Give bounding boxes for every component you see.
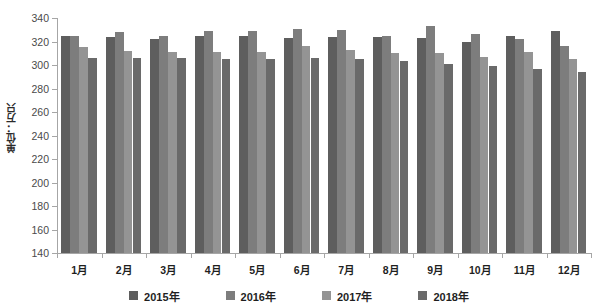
x-axis-tick-label: 12月: [558, 262, 580, 277]
bar-2017年-4月: [213, 52, 222, 253]
bar-2015年-8月: [373, 37, 382, 253]
legend-swatch-icon: [322, 291, 331, 300]
bar-2015年-1月: [61, 36, 70, 253]
bar-2016年-2月: [115, 32, 124, 253]
bar-chart: 单位：万只 3403203002802602402202001801601401…: [0, 0, 598, 308]
y-axis-tick-label: 160: [5, 224, 49, 236]
y-axis-tick-mark: [52, 42, 57, 43]
x-axis-tick-label: 8月: [383, 262, 399, 277]
y-axis-tick-label: 340: [5, 12, 49, 24]
bar-2016年-4月: [204, 31, 213, 253]
bar-2016年-5月: [248, 31, 257, 253]
x-axis-tick-mark: [413, 253, 414, 258]
bar-2018年-11月: [533, 69, 542, 253]
bar-2017年-11月: [524, 52, 533, 253]
y-axis-tick-label: 240: [5, 130, 49, 142]
bar-2017年-12月: [569, 59, 578, 253]
legend-swatch-icon: [418, 291, 427, 300]
bar-2017年-2月: [124, 51, 133, 253]
y-axis-tick-label: 320: [5, 36, 49, 48]
y-axis-tick-label: 300: [5, 59, 49, 71]
x-axis-tick-label: 3月: [160, 262, 176, 277]
bar-2015年-9月: [417, 38, 426, 253]
chart-legend: 2015年2016年2017年2018年: [0, 283, 598, 308]
bar-2016年-12月: [560, 46, 569, 253]
bar-2016年-1月: [70, 36, 79, 253]
x-axis-tick-label: 1月: [71, 262, 87, 277]
x-axis-tick-label: 11月: [514, 262, 535, 277]
bar-2015年-6月: [284, 38, 293, 253]
x-axis-tick-mark: [280, 253, 281, 258]
y-axis-line: [57, 18, 58, 253]
bar-2018年-2月: [133, 58, 142, 253]
x-axis-tick-mark: [458, 253, 459, 258]
legend-label: 2018年: [433, 288, 468, 304]
y-axis-tick-label: 220: [5, 153, 49, 165]
x-axis-tick-mark: [191, 253, 192, 258]
legend-item-2017年[interactable]: 2017年: [322, 288, 372, 304]
x-axis-tick-label: 10月: [469, 262, 491, 277]
y-axis-tick-mark: [52, 112, 57, 113]
x-axis-tick-label: 6月: [294, 262, 310, 277]
bar-2015年-2月: [106, 37, 115, 253]
bar-2015年-3月: [150, 39, 159, 253]
x-axis-tick-mark: [57, 253, 58, 258]
bar-2017年-10月: [480, 57, 489, 253]
legend-label: 2015年: [144, 288, 179, 304]
bar-2017年-8月: [391, 53, 400, 253]
bar-2018年-9月: [444, 64, 453, 253]
y-axis-tick-mark: [52, 183, 57, 184]
x-axis-tick-label: 9月: [427, 262, 443, 277]
bar-2016年-3月: [159, 36, 168, 253]
legend-item-2018年[interactable]: 2018年: [418, 288, 468, 304]
y-axis-tick-mark: [52, 206, 57, 207]
bar-2018年-5月: [266, 59, 275, 253]
bar-2017年-3月: [168, 52, 177, 253]
bar-2015年-12月: [551, 31, 560, 253]
y-axis-tick-label: 260: [5, 106, 49, 118]
bar-2017年-1月: [79, 47, 88, 253]
y-axis-tick-label: 140: [5, 247, 49, 259]
y-axis-tick-mark: [52, 230, 57, 231]
bar-2015年-4月: [195, 36, 204, 253]
y-axis-tick-label: 200: [5, 177, 49, 189]
bar-2015年-10月: [462, 42, 471, 254]
bar-2018年-12月: [578, 72, 587, 253]
x-axis-tick-mark: [235, 253, 236, 258]
x-axis-tick-label: 7月: [338, 262, 354, 277]
legend-label: 2017年: [337, 288, 372, 304]
bar-2016年-10月: [471, 34, 480, 253]
legend-swatch-icon: [226, 291, 235, 300]
y-axis-tick-mark: [52, 65, 57, 66]
bar-2016年-11月: [515, 39, 524, 253]
x-axis-tick-mark: [369, 253, 370, 258]
legend-swatch-icon: [129, 291, 138, 300]
x-axis-tick-mark: [547, 253, 548, 258]
x-axis-tick-mark: [146, 253, 147, 258]
bar-2018年-10月: [489, 66, 498, 253]
bar-2018年-8月: [400, 61, 409, 253]
bar-2015年-7月: [328, 37, 337, 253]
legend-item-2016年[interactable]: 2016年: [226, 288, 276, 304]
x-axis-tick-label: 4月: [205, 262, 221, 277]
y-axis-tick-label: 180: [5, 200, 49, 212]
bar-2017年-7月: [346, 50, 355, 253]
bar-2015年-11月: [506, 36, 515, 253]
bar-2016年-8月: [382, 36, 391, 253]
y-axis-tick-mark: [52, 18, 57, 19]
bar-2016年-7月: [337, 30, 346, 253]
x-axis-tick-mark: [102, 253, 103, 258]
x-axis-tick-label: 2月: [116, 262, 132, 277]
bar-2018年-1月: [88, 58, 97, 253]
legend-item-2015年[interactable]: 2015年: [129, 288, 179, 304]
bar-2016年-9月: [426, 26, 435, 253]
y-axis-tick-label: 280: [5, 83, 49, 95]
bar-2018年-3月: [177, 58, 186, 253]
plot-area: 3403203002802602402202001801601401月2月3月4…: [57, 18, 591, 253]
x-axis-tick-mark: [591, 253, 592, 258]
y-axis-tick-mark: [52, 136, 57, 137]
bar-2017年-6月: [302, 46, 311, 253]
bar-2017年-9月: [435, 53, 444, 253]
legend-label: 2016年: [241, 288, 276, 304]
x-axis-tick-mark: [324, 253, 325, 258]
